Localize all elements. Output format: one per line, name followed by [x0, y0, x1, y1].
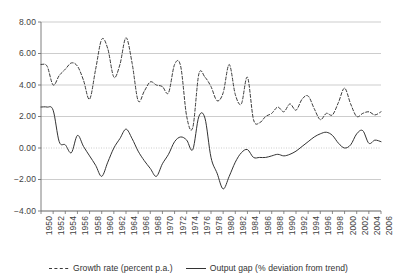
y-tick-label: −2.00 [0, 175, 36, 184]
gridlines [41, 22, 381, 211]
x-tick-label: 2004 [373, 216, 382, 235]
legend-label-growth-rate: Growth rate (percent p.a.) [73, 263, 173, 273]
y-tick-label: −4.00 [0, 207, 36, 216]
x-tick-label: 1992 [300, 216, 309, 235]
x-tick-label: 1960 [106, 216, 115, 235]
x-tick-label: 1970 [166, 216, 175, 235]
x-tick-label: 1954 [69, 216, 78, 235]
plot-area [41, 22, 381, 211]
x-tick-label: 1978 [215, 216, 224, 235]
x-tick-label: 2006 [385, 216, 394, 235]
x-tick-label: 1986 [264, 216, 273, 235]
x-tick-label: 1982 [239, 216, 248, 235]
x-tick-label: 1958 [94, 216, 103, 235]
y-tick-label: 0.00 [0, 144, 36, 153]
x-tick-label: 1966 [142, 216, 151, 235]
x-tick-label: 1990 [288, 216, 297, 235]
solid-line-swatch-icon [186, 264, 206, 273]
x-tick-label: 1998 [336, 216, 345, 235]
x-tick-label: 1984 [251, 216, 260, 235]
x-tick-label: 1988 [276, 216, 285, 235]
chart-legend: Growth rate (percent p.a.) Output gap (%… [0, 258, 397, 278]
x-tick-label: 1956 [81, 216, 90, 235]
x-tick-label: 1968 [154, 216, 163, 235]
x-tick-label: 1950 [45, 216, 54, 235]
plot-canvas [41, 22, 381, 211]
dashed-line-swatch-icon [49, 264, 69, 273]
x-tick-label: 1972 [179, 216, 188, 235]
x-tick-label: 1976 [203, 216, 212, 235]
y-tick-label: 4.00 [0, 81, 36, 90]
x-tick-label: 1974 [191, 216, 200, 235]
legend-item-growth-rate: Growth rate (percent p.a.) [49, 263, 173, 273]
x-tick-label: 1964 [130, 216, 139, 235]
x-axis: 1950195219541956195819601962196419661968… [41, 214, 381, 258]
x-tick-label: 1962 [118, 216, 127, 235]
y-tick-label: 8.00 [0, 18, 36, 27]
legend-item-output-gap: Output gap (% deviation from trend) [186, 263, 348, 273]
legend-label-output-gap: Output gap (% deviation from trend) [210, 263, 348, 273]
chart-figure: 8.006.004.002.000.00−2.00−4.00 195019521… [0, 0, 397, 280]
y-tick-label: 2.00 [0, 112, 36, 121]
x-tick-label: 1996 [324, 216, 333, 235]
tick-marks [38, 22, 381, 214]
x-tick-label: 1952 [57, 216, 66, 235]
x-tick-label: 1980 [227, 216, 236, 235]
x-tick-label: 2000 [349, 216, 358, 235]
y-tick-label: 6.00 [0, 49, 36, 58]
x-tick-label: 2002 [361, 216, 370, 235]
x-tick-label: 1994 [312, 216, 321, 235]
